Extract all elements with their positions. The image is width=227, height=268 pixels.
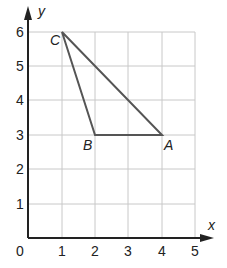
- point-label-a: A: [163, 137, 173, 153]
- triangle-abc: [62, 32, 162, 135]
- y-axis-label: y: [37, 3, 46, 19]
- point-label-b: B: [83, 137, 92, 153]
- x-axis-arrow-icon: [200, 234, 214, 242]
- x-tick: 2: [91, 243, 99, 259]
- x-tick: 4: [158, 243, 166, 259]
- x-tick: 3: [124, 243, 132, 259]
- y-tick: 1: [16, 196, 24, 212]
- y-axis-arrow-icon: [24, 6, 32, 20]
- y-tick: 3: [16, 127, 24, 143]
- point-label-c: C: [50, 32, 61, 48]
- axes: [28, 16, 205, 238]
- y-tick: 5: [16, 58, 24, 74]
- y-tick: 6: [16, 24, 24, 40]
- y-tick: 4: [16, 92, 24, 108]
- x-axis-label: x: [207, 217, 216, 233]
- coordinate-diagram: y x 0 1 2 3 4 5 1 2 3 4 5 6 C B A: [0, 0, 227, 268]
- origin-label: 0: [16, 243, 24, 259]
- x-tick: 5: [191, 243, 199, 259]
- y-tick: 2: [16, 161, 24, 177]
- x-tick: 1: [58, 243, 66, 259]
